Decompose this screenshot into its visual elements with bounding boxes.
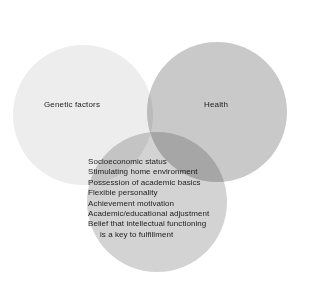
list-item: Flexible personality	[88, 188, 238, 198]
venn-circles-group	[0, 0, 310, 286]
environment-attribute-list: Socioeconomic status Stimulating home en…	[88, 157, 238, 240]
list-item: Achievement motivation	[88, 199, 238, 209]
venn-label-health: Health	[204, 100, 228, 109]
venn-label-genetic-factors: Genetic factors	[44, 100, 100, 109]
venn-diagram-figure: Genetic factors Health Socioeconomic sta…	[0, 0, 310, 286]
list-item: Possession of academic basics	[88, 178, 238, 188]
list-item: Stimulating home environment	[88, 167, 238, 177]
list-item: Belief that intellectual functioning	[88, 219, 238, 229]
list-item: is a key to fulfillment	[88, 230, 238, 240]
list-item: Socioeconomic status	[88, 157, 238, 167]
list-item: Academic/educational adjustment	[88, 209, 238, 219]
